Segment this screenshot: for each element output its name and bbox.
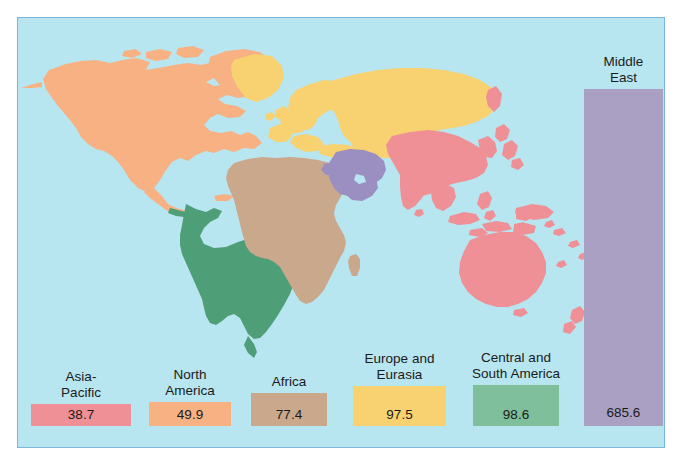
bar-label-line-1: Central and (481, 350, 551, 365)
bar-group-africa[interactable]: Africa 77.4 (251, 393, 327, 426)
bar-rect-asia-pacific[interactable]: 38.7 (31, 404, 131, 426)
bar-chart-overlay: Asia- Pacific 38.7 North America 49.9 Af… (18, 18, 665, 448)
bar-label-asia-pacific: Asia- Pacific (61, 369, 101, 404)
bar-value-central-south-america: 98.6 (473, 407, 559, 422)
bar-rect-central-south-america[interactable]: 98.6 (473, 385, 559, 426)
bar-rect-north-america[interactable]: 49.9 (149, 402, 231, 426)
bar-label-line-2: Eurasia (377, 367, 423, 382)
bar-value-north-america: 49.9 (149, 407, 231, 422)
bar-label-europe-eurasia: Europe and Eurasia (365, 351, 435, 386)
bar-label-central-south-america: Central and South America (472, 350, 560, 385)
bar-value-asia-pacific: 38.7 (31, 407, 131, 422)
bar-label-line-2: East (610, 70, 637, 85)
bar-label-africa: Africa (272, 374, 307, 393)
bar-group-north-america[interactable]: North America 49.9 (149, 402, 231, 426)
bar-label-line-1: Middle (604, 54, 644, 69)
bar-value-middle-east: 685.6 (584, 405, 663, 420)
bar-label-north-america: North America (165, 367, 215, 402)
bar-label-line-1: North (173, 367, 206, 382)
bar-rect-europe-eurasia[interactable]: 97.5 (353, 386, 446, 426)
bar-label-line-2: Pacific (61, 385, 101, 400)
world-energy-chart-figure: Asia- Pacific 38.7 North America 49.9 Af… (17, 17, 665, 448)
bar-rect-middle-east[interactable]: 685.6 (584, 89, 663, 426)
bar-value-europe-eurasia: 97.5 (353, 407, 446, 422)
bar-group-europe-eurasia[interactable]: Europe and Eurasia 97.5 (353, 386, 446, 426)
bar-label-line-2: America (165, 383, 215, 398)
bar-group-middle-east[interactable]: Middle East 685.6 (584, 89, 663, 426)
bar-label-line-2: South America (472, 366, 560, 381)
bar-label-middle-east: Middle East (604, 54, 644, 89)
bar-label-line-1: Asia- (66, 369, 97, 384)
bar-value-africa: 77.4 (251, 407, 327, 422)
bar-label-line-1: Africa (272, 374, 307, 389)
bar-label-line-1: Europe and (365, 351, 435, 366)
bar-group-asia-pacific[interactable]: Asia- Pacific 38.7 (31, 404, 131, 426)
bar-rect-africa[interactable]: 77.4 (251, 393, 327, 426)
bar-group-central-south-america[interactable]: Central and South America 98.6 (473, 385, 559, 426)
